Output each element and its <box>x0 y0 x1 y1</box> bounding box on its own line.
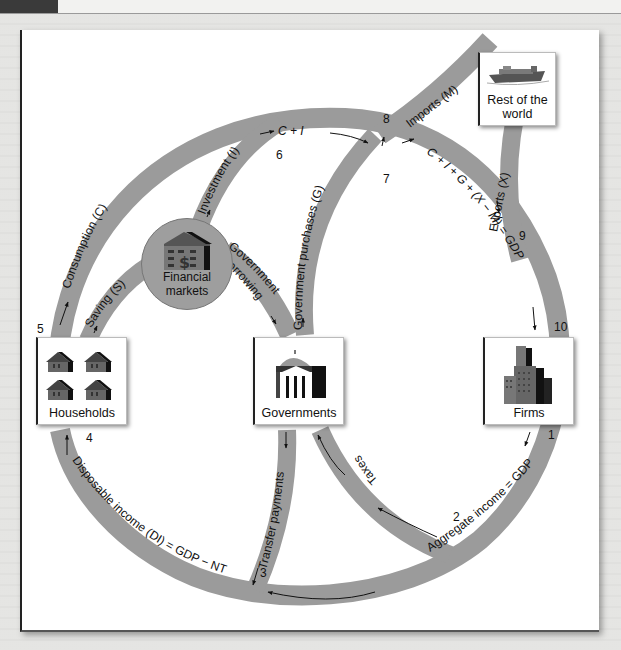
step-number-4: 4 <box>86 431 93 445</box>
node-rest-of-world[interactable]: Rest of the world <box>478 52 556 126</box>
node-governments[interactable]: Governments <box>253 337 344 425</box>
node-label-households: Households <box>49 406 115 424</box>
step-number-7: 7 <box>383 172 390 186</box>
flow-label-c-plus-i: C + I <box>278 124 304 138</box>
node-label-governments: Governments <box>261 406 336 424</box>
step-number-1: 1 <box>548 428 555 442</box>
step-number-2: 2 <box>453 510 460 524</box>
bank-building-dollar-icon: $ <box>162 230 212 270</box>
step-number-3: 3 <box>260 566 267 580</box>
capitol-building-icon <box>268 350 330 402</box>
node-firms[interactable]: Firms <box>483 337 574 425</box>
step-number-5: 5 <box>37 322 44 336</box>
office-towers-icon <box>504 346 554 404</box>
node-label-financial-markets-1: Financial <box>163 270 211 284</box>
step-number-8: 8 <box>383 112 390 126</box>
cargo-ship-icon <box>487 61 549 87</box>
node-financial-markets[interactable]: $ Financial markets <box>141 218 233 310</box>
node-label-firms: Firms <box>513 406 544 424</box>
svg-text:$: $ <box>179 253 190 270</box>
node-label-financial-markets-2: markets <box>163 284 211 298</box>
node-households[interactable]: Households <box>36 337 127 425</box>
node-label-rest-of-world: Rest of the world <box>487 93 547 125</box>
houses-icon <box>46 350 118 402</box>
step-number-10: 10 <box>554 320 567 334</box>
step-number-9: 9 <box>519 229 526 243</box>
step-number-6: 6 <box>276 148 283 162</box>
